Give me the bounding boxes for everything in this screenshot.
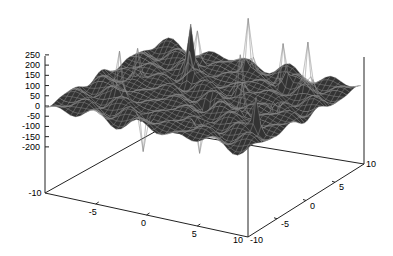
z-tick-label: 0 (35, 101, 40, 111)
x-tick-label: -5 (89, 207, 97, 217)
y-tick-label: -10 (250, 235, 263, 245)
z-tick-label: -100 (22, 121, 40, 131)
x-tick-label: 0 (141, 218, 146, 228)
z-tick-label: 100 (25, 81, 40, 91)
y-tick-label: 0 (310, 201, 315, 211)
z-tick-label: 250 (25, 50, 40, 60)
z-tick-label: -150 (22, 132, 40, 142)
z-tick-label: 50 (30, 91, 40, 101)
y-tick-label: 10 (366, 159, 376, 169)
z-tick-label: -200 (22, 142, 40, 152)
x-tick-label: -10 (28, 188, 41, 198)
y-tick-label: 5 (339, 182, 344, 192)
z-tick-label: 150 (25, 70, 40, 80)
y-axis-ticks: -10-50510 (250, 159, 376, 245)
x-tick-label: 5 (192, 229, 197, 239)
z-tick-label: -50 (27, 111, 40, 121)
x-tick-label: 10 (233, 235, 243, 245)
surface-plot: 250200150100500-50-100-150-200 -10-50510… (0, 0, 393, 256)
y-tick-label: -5 (281, 219, 289, 229)
z-tick-label: 200 (25, 60, 40, 70)
surface-mesh (45, 18, 361, 155)
